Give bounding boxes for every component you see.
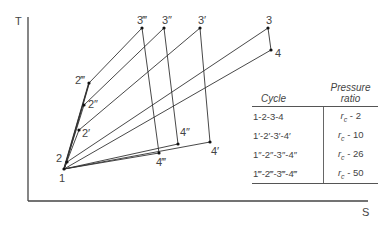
cell-cycle: 1‴-2‴-3‴-4‴ — [252, 164, 323, 184]
label-point-4p: 4′ — [211, 145, 219, 157]
s-axis-label: S — [362, 206, 369, 218]
cell-ratio: rc - 2 — [323, 107, 378, 127]
cell-ratio: rc - 50 — [323, 164, 378, 184]
point-marker-2p — [77, 128, 80, 131]
label-point-4pp: 4″ — [180, 126, 190, 138]
cell-cycle: 1′-2′-3′-4′ — [252, 126, 323, 145]
point-marker-2ppp — [87, 81, 90, 84]
label-point-4ppp: 4‴ — [156, 156, 166, 168]
table-header-row: Cycle Pressure ratio — [252, 82, 378, 107]
cell-ratio: rc - 10 — [323, 126, 378, 145]
point-marker-2 — [65, 160, 68, 163]
label-point-4: 4 — [275, 47, 281, 59]
cell-ratio: rc - 26 — [323, 145, 378, 164]
t-axis-label: T — [15, 15, 22, 27]
cell-cycle: 1-2-3-4 — [252, 107, 323, 127]
table-row: 1‴-2‴-3‴-4‴ rc - 50 — [252, 164, 378, 184]
ratio-value: - 10 — [345, 129, 364, 140]
point-marker-4ppp — [157, 151, 160, 154]
point-marker-4p — [208, 140, 211, 143]
pressure-ratio-table: Cycle Pressure ratio 1-2-3-4 rc - 2 1′-2… — [252, 82, 378, 184]
label-point-1: 1 — [59, 172, 65, 184]
point-marker-4pp — [176, 142, 179, 145]
ratio-value: - 50 — [345, 167, 364, 178]
header-pressure-ratio: Pressure ratio — [323, 82, 378, 107]
point-marker-3 — [266, 26, 269, 29]
point-marker-3ppp — [140, 26, 143, 29]
header-ratio: ratio — [341, 93, 360, 104]
cycle-line-4 — [64, 28, 159, 169]
table-row: 1″-2″-3″-4″ rc - 26 — [252, 145, 378, 164]
point-marker-2pp — [82, 103, 85, 106]
point-marker-3pp — [162, 26, 165, 29]
label-point-2pp: 2″ — [88, 98, 98, 110]
table-row: 1-2-3-4 rc - 2 — [252, 107, 378, 127]
point-marker-4 — [269, 48, 272, 51]
label-point-3ppp: 3‴ — [137, 14, 147, 26]
label-point-2: 2 — [56, 152, 62, 164]
header-cycle: Cycle — [252, 82, 323, 107]
table-row: 1′-2′-3′-4′ rc - 10 — [252, 126, 378, 145]
label-point-2p: 2′ — [82, 127, 90, 139]
label-point-3: 3 — [266, 14, 272, 26]
ratio-value: - 26 — [345, 148, 364, 159]
point-marker-1 — [62, 167, 65, 170]
label-point-3pp: 3″ — [162, 14, 172, 26]
cell-cycle: 1″-2″-3″-4″ — [252, 145, 323, 164]
header-pressure: Pressure — [330, 82, 370, 93]
label-point-3p: 3′ — [198, 14, 206, 26]
label-point-2ppp: 2‴ — [75, 74, 85, 86]
point-marker-3p — [198, 26, 201, 29]
ratio-value: - 2 — [347, 110, 361, 121]
cycle-line-2 — [64, 28, 210, 169]
